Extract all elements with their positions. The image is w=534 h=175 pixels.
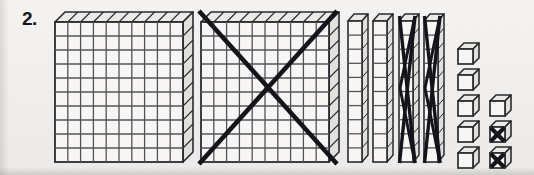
ones-cube-6[interactable]: [489, 94, 513, 118]
hundreds-flat-2[interactable]: [201, 12, 341, 164]
ones-cube-2[interactable]: [457, 68, 481, 92]
ones-cube-4[interactable]: [457, 120, 481, 144]
hundreds-flat-1[interactable]: [55, 12, 195, 164]
worksheet-problem: 2.: [0, 0, 534, 175]
page-edge-shadow-left: [0, 0, 9, 175]
ones-cube-8[interactable]: [489, 146, 513, 170]
tens-rod-1[interactable]: [348, 14, 370, 164]
page-edge-shadow-bottom: [0, 167, 534, 175]
problem-number: 2.: [22, 9, 37, 28]
ones-cube-1[interactable]: [457, 42, 481, 66]
ones-cube-3[interactable]: [457, 94, 481, 118]
tens-rod-4[interactable]: [424, 14, 446, 164]
ones-cube-7[interactable]: [489, 120, 513, 144]
ones-cube-5[interactable]: [457, 146, 481, 170]
tens-rod-2[interactable]: [373, 14, 395, 164]
tens-rod-3[interactable]: [399, 14, 421, 164]
